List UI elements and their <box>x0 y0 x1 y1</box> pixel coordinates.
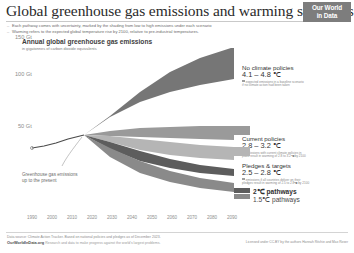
x-tick-2050: 2050 <box>147 215 157 220</box>
scenario-description: emissions if all countries deliver on th… <box>242 178 309 186</box>
bullet-icon <box>242 80 245 83</box>
swatch-1-5c-pathways <box>234 194 250 199</box>
y-tick-50: 50 Gt <box>18 123 32 129</box>
band-no-climate-policies <box>84 47 234 135</box>
swatch-current-policies <box>234 126 250 135</box>
x-tick-2090: 2090 <box>227 215 237 220</box>
scenario-description: emissions with current climate policies … <box>242 151 306 159</box>
footer-license: Licensed under CC-BY by the authors Hann… <box>246 240 348 244</box>
x-tick-2040: 2040 <box>127 215 137 220</box>
bullet-icon <box>242 178 245 181</box>
chart-page: Global greenhouse gas emissions and warm… <box>0 0 354 253</box>
scenario-description: expected emissions in a baseline scenari… <box>242 80 304 88</box>
y-tick-100: 100 Gt <box>15 71 32 77</box>
footer-divider <box>6 232 348 233</box>
historical-annotation-leader <box>62 137 82 166</box>
swatch-2c-pathways <box>234 188 250 193</box>
footer-note: Research and data to make progress again… <box>45 241 160 245</box>
footer-site-line: OurWorldInData.org Research and data to … <box>7 240 160 245</box>
chart-plot-area: 150 Gt 100 Gt 50 Gt 1990 2000 2010 2020 … <box>0 0 354 253</box>
x-tick-2020: 2020 <box>87 215 97 220</box>
x-tick-1990: 1990 <box>27 215 37 220</box>
footer-site[interactable]: OurWorldInData.org <box>7 240 44 245</box>
x-tick-2070: 2070 <box>187 215 197 220</box>
x-tick-2000: 2000 <box>47 215 57 220</box>
historical-annotation-line-1: Greenhouse gas emissions <box>22 172 78 178</box>
footer-source: Data source: Climate Action Tracker. Bas… <box>7 235 161 239</box>
label-1-5c-pathways[interactable]: 1.5℃ pathways <box>253 196 300 204</box>
x-tick-2030: 2030 <box>107 215 117 220</box>
x-tick-2080: 2080 <box>207 215 217 220</box>
x-tick-2010: 2010 <box>67 215 77 220</box>
historical-emissions-annotation: Greenhouse gas emissions up to the prese… <box>22 172 78 183</box>
annotation-current-policies[interactable]: Current policies 2.8 – 3.2 ℃ emissions w… <box>242 135 306 159</box>
historical-emissions-line <box>32 135 84 148</box>
annotation-pledges-targets[interactable]: Pledges & targets 2.5 – 2.8 ℃ emissions … <box>242 162 309 186</box>
x-tick-2060: 2060 <box>167 215 177 220</box>
annotation-no-climate-policies[interactable]: No climate policies 4.1 – 4.8 ℃ expected… <box>242 64 304 88</box>
historical-annotation-line-2: up to the present <box>22 178 78 184</box>
y-tick-150: 150 Gt <box>15 34 32 40</box>
label-2c-pathways[interactable]: 2℃ pathways <box>253 188 297 196</box>
swatch-pledges-targets <box>234 147 250 156</box>
